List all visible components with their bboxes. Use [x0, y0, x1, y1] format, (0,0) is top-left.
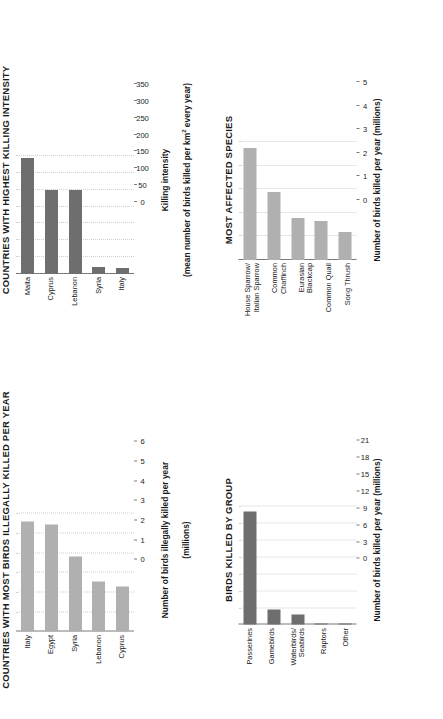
bar[interactable] [314, 624, 327, 625]
category-label: Waterbirds/ Seabirds [289, 628, 306, 666]
bar[interactable] [69, 556, 82, 632]
bar[interactable] [267, 192, 280, 260]
category-label: Gamebirds [267, 628, 275, 664]
category-label: House Sparrow/ Italian Sparrow [243, 263, 260, 316]
bar[interactable] [314, 221, 327, 260]
bar-slot [338, 403, 351, 625]
bars-most-affected-species [238, 42, 356, 260]
bar[interactable] [92, 581, 105, 631]
panel-birds-killed-by-group: BIRDS KILLED BY GROUP PasserinesGamebird… [222, 360, 443, 719]
bar[interactable] [69, 190, 82, 274]
axis-tick [356, 456, 359, 457]
bar-slot [69, 40, 82, 274]
bar-slot [291, 403, 304, 625]
bar-slot [314, 403, 327, 625]
bar[interactable] [92, 267, 105, 274]
axis-tick-label: 5 [363, 78, 367, 87]
axis-tick [356, 473, 359, 474]
bar-slot [116, 402, 129, 632]
bar-slot [45, 402, 58, 632]
axis-tick-label: 350 [136, 80, 149, 89]
category-axis-most-affected-species: House Sparrow/ Italian SparrowCommon Cha… [238, 260, 356, 318]
panel-most-birds-killed: COUNTRIES WITH MOST BIRDS ILLEGALLY KILL… [0, 360, 222, 719]
bar-slot [314, 42, 327, 260]
bar-slot [92, 402, 105, 632]
category-label: Cyprus [118, 635, 126, 658]
category-label: Malta [24, 277, 32, 295]
bar[interactable] [243, 148, 256, 260]
axis-tick-label: 4 [141, 476, 145, 485]
bar-slot [291, 42, 304, 260]
bar[interactable] [45, 190, 58, 274]
chart-title-most-affected-species: MOST AFFECTED SPECIES [222, 116, 234, 244]
axis-tick-label: 300 [136, 96, 149, 105]
bar[interactable] [267, 609, 280, 624]
bar[interactable] [21, 158, 34, 274]
chart-title-killing-intensity: COUNTRIES WITH HIGHEST KILLING INTENSITY [0, 66, 12, 295]
category-label: Song Thrush [343, 263, 351, 305]
bar[interactable] [45, 524, 58, 631]
value-axis-birds-killed-by-group: 036912151821 [356, 403, 369, 677]
bar-slot [45, 40, 58, 274]
axis-tick-label: 2 [363, 148, 367, 157]
axis-tick-label: 12 [360, 487, 368, 496]
bar-series [16, 40, 134, 274]
axis-tick [134, 201, 137, 202]
value-axis-killing-intensity: 050100150200250300350 [134, 40, 147, 320]
bar[interactable] [21, 521, 34, 631]
axis-tick-label: 1 [141, 535, 145, 544]
axis-tick-label: 3 [363, 125, 367, 134]
bar[interactable] [338, 232, 351, 260]
bar-slot [267, 403, 280, 625]
bar-slot [338, 42, 351, 260]
axis-tick-label: 0 [141, 555, 145, 564]
bars-killing-intensity [16, 40, 134, 274]
category-label: Syria [71, 635, 79, 652]
axis-tick-label: 21 [360, 436, 368, 445]
axis-tick [356, 175, 359, 176]
axis-tick [356, 524, 359, 525]
category-label: Lebanon [71, 277, 79, 306]
bar[interactable] [291, 218, 304, 260]
category-label: Italy [118, 277, 126, 291]
axis-tick-label: 0 [363, 196, 367, 205]
category-axis-most-birds-killed: ItalyEgyptSyriaLebanonCyprus [16, 632, 134, 678]
axis-tick [356, 105, 359, 106]
bar-slot [116, 40, 129, 274]
axis-tick-label: 15 [360, 470, 368, 479]
bar-slot [69, 402, 82, 632]
axis-tick [134, 519, 137, 520]
axis-tick-label: 200 [136, 130, 149, 139]
axis-tick [134, 539, 137, 540]
bar[interactable] [116, 586, 129, 631]
axis-title-most-affected-species: Number of birds killed per year (million… [371, 99, 382, 262]
bar-slot [243, 403, 256, 625]
chart-title-birds-killed-by-group: BIRDS KILLED BY GROUP [222, 478, 234, 602]
axis-tick-label: 100 [136, 164, 149, 173]
value-axis-most-affected-species: 012345 [356, 42, 369, 318]
axis-tick [356, 152, 359, 153]
axis-tick-label: 3 [363, 537, 367, 546]
axis-tick-label: 0 [363, 554, 367, 563]
axis-tick-label: 250 [136, 113, 149, 122]
bar[interactable] [116, 268, 129, 274]
bar[interactable] [291, 614, 304, 625]
axis-title-most-birds-killed: Number of birds illegally killed per yea… [149, 461, 191, 617]
axis-title-killing-intensity: Killing intensity (mean number of birds … [149, 83, 192, 277]
category-label: Common Quail [324, 263, 332, 312]
axis-tick [134, 184, 137, 185]
category-label: Italy [24, 635, 32, 649]
category-label: Raptors [319, 628, 327, 654]
plot-area-most-affected-species: House Sparrow/ Italian SparrowCommon Cha… [238, 42, 382, 318]
bar-series [238, 42, 356, 260]
category-label: Lebanon [95, 635, 103, 664]
bar-slot [92, 40, 105, 274]
panel-killing-intensity: COUNTRIES WITH HIGHEST KILLING INTENSITY… [0, 0, 222, 360]
bar-slot [21, 402, 34, 632]
bar[interactable] [243, 511, 256, 625]
axis-tick-label: 1 [363, 172, 367, 181]
bar-slot [243, 42, 256, 260]
category-label: Cyprus [47, 277, 55, 300]
axis-tick [134, 559, 137, 560]
category-label: Syria [95, 277, 103, 294]
